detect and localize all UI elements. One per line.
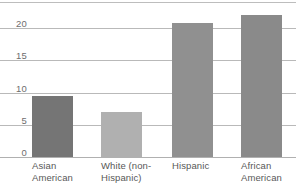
bar-asian-american (32, 96, 73, 157)
category-label-african-american: African American (241, 160, 300, 183)
category-label-hispanic: Hispanic (172, 160, 238, 172)
axis-baseline-0 (0, 157, 296, 158)
bar-african-american (241, 15, 282, 157)
category-axis: Asian American White (non- Hispanic) His… (0, 160, 300, 190)
bar-hispanic (172, 23, 213, 157)
plot-area: 20 15 10 5 0 (0, 0, 300, 162)
bar-white-non-hispanic (101, 112, 142, 157)
category-label-white-non-hispanic: White (non- Hispanic) (101, 160, 171, 183)
category-label-asian-american: Asian American (32, 160, 94, 183)
bar-chart: 20 15 10 5 0 Asian American White (non- … (0, 0, 300, 190)
bars-layer (0, 0, 300, 157)
